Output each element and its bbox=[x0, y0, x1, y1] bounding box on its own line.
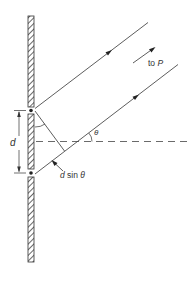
dimension-arrow-down-icon bbox=[17, 167, 21, 173]
to-p-label: to P bbox=[148, 58, 163, 68]
wall-angle-arc bbox=[35, 124, 45, 127]
lower-slit bbox=[29, 171, 33, 175]
upper-slit bbox=[29, 109, 33, 113]
perpendicular-line bbox=[35, 111, 65, 151]
path-difference-label: d sin θ bbox=[60, 170, 85, 180]
lower-ray bbox=[35, 65, 178, 175]
theta-angle-label: θ bbox=[94, 128, 99, 137]
barrier-bottom-segment bbox=[28, 177, 34, 262]
slit-separation-label: d bbox=[10, 137, 16, 148]
upper-ray-arrow-icon bbox=[106, 50, 113, 56]
slit-separation-dimension bbox=[14, 111, 26, 174]
upper-ray bbox=[35, 23, 148, 109]
double-slit-diagram: d to P θ d sin θ bbox=[0, 0, 188, 282]
theta-angle-arc bbox=[89, 133, 92, 142]
barrier-middle-segment bbox=[28, 114, 34, 169]
barrier-top-segment bbox=[28, 16, 34, 107]
dimension-arrow-up-icon bbox=[17, 111, 21, 117]
barrier-wall bbox=[28, 16, 34, 262]
lower-ray-arrow-icon bbox=[133, 95, 140, 101]
to-p-arrowhead-icon bbox=[149, 47, 156, 53]
